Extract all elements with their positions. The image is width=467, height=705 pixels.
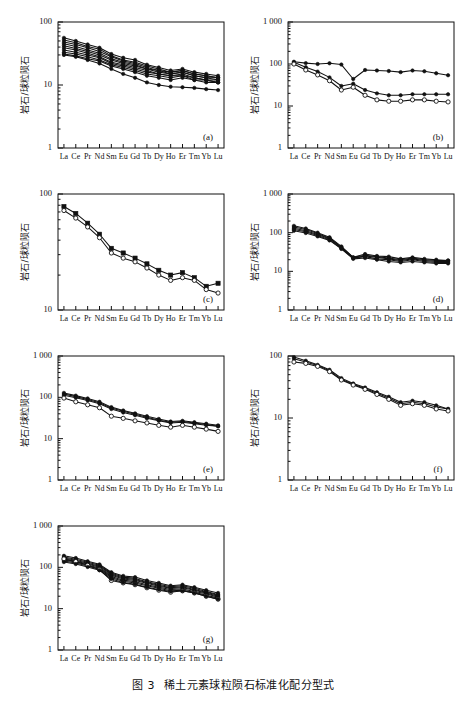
data-point — [339, 88, 343, 92]
x-tick-label-dy: Dy — [154, 654, 164, 663]
data-point — [62, 208, 66, 212]
data-point — [399, 70, 402, 73]
y-axis-label: 岩石/球粒陨石 — [19, 56, 30, 113]
x-tick-label-yb: Yb — [431, 152, 441, 161]
data-point — [122, 411, 125, 414]
data-point — [304, 61, 307, 64]
data-point — [292, 229, 295, 232]
data-point — [181, 589, 184, 592]
data-point — [169, 273, 173, 277]
x-tick-label-nd: Nd — [325, 484, 335, 493]
data-point — [387, 397, 391, 401]
x-tick-label-pr: Pr — [314, 314, 321, 323]
y-tick-label: 1 — [48, 474, 52, 484]
data-point — [328, 239, 331, 242]
data-point — [204, 427, 208, 431]
data-point — [216, 597, 219, 600]
panel-label: (e) — [203, 464, 213, 474]
panel-label: (d) — [433, 294, 444, 304]
x-tick-label-dy: Dy — [384, 152, 394, 161]
x-tick-label-yb: Yb — [201, 152, 211, 161]
y-axis-label: 岩石/球粒陨石 — [249, 389, 260, 446]
data-point — [181, 86, 184, 89]
data-point — [375, 92, 378, 95]
x-tick-label-tm: Tm — [419, 314, 431, 323]
x-tick-label-tm: Tm — [189, 484, 201, 493]
y-tick-label: 10 — [44, 433, 53, 443]
data-point — [109, 251, 113, 255]
data-point — [110, 67, 113, 70]
data-point — [122, 72, 125, 75]
data-point — [204, 287, 208, 291]
y-axis-label: 岩石/球粒陨石 — [249, 56, 260, 113]
y-tick-label: 1 — [278, 304, 282, 314]
data-point — [133, 76, 136, 79]
x-tick-label-gd: Gd — [360, 484, 370, 493]
data-point — [157, 83, 160, 86]
data-point — [157, 273, 161, 277]
data-point — [121, 251, 125, 255]
data-point — [434, 407, 438, 411]
x-tick-label-dy: Dy — [384, 314, 394, 323]
x-tick-label-sm: Sm — [106, 314, 117, 323]
data-point — [74, 55, 77, 58]
chart-panel-c: 10100LaCePrNdSmEuGdTbDyHoErTmYbLu岩石/球粒陨石… — [10, 180, 232, 340]
data-point — [363, 387, 367, 391]
y-tick-label: 100 — [269, 227, 282, 237]
plot-frame — [288, 22, 454, 148]
data-point — [169, 78, 172, 81]
x-tick-label-gd: Gd — [130, 484, 140, 493]
x-tick-label-la: La — [60, 654, 69, 663]
x-tick-label-eu: Eu — [119, 152, 128, 161]
x-tick-label-er: Er — [409, 152, 417, 161]
x-tick-label-ho: Ho — [166, 654, 176, 663]
data-point — [351, 85, 355, 89]
x-tick-label-er: Er — [409, 484, 417, 493]
x-tick-label-dy: Dy — [154, 314, 164, 323]
data-point — [446, 262, 449, 265]
panel-label: (b) — [433, 132, 444, 142]
data-point — [327, 370, 331, 374]
y-tick-label: 10 — [44, 304, 53, 314]
x-tick-label-tm: Tm — [189, 314, 201, 323]
data-point — [133, 413, 136, 416]
series-line-b2 — [294, 62, 448, 95]
x-tick-label-gd: Gd — [360, 152, 370, 161]
data-point — [363, 88, 366, 91]
data-point — [375, 392, 379, 396]
data-point — [292, 360, 296, 364]
x-tick-label-er: Er — [179, 314, 187, 323]
data-point — [304, 231, 307, 234]
data-point — [97, 406, 101, 410]
data-point — [304, 68, 308, 72]
plot-frame — [58, 356, 224, 480]
x-tick-label-ce: Ce — [301, 152, 310, 161]
data-point — [328, 62, 331, 65]
x-tick-label-eu: Eu — [349, 484, 358, 493]
data-point — [133, 70, 136, 73]
data-point — [399, 94, 402, 97]
chart-panel-b: 1101001 000LaCePrNdSmEuGdTbDyHoErTmYbLu岩… — [240, 8, 462, 178]
data-point — [157, 76, 160, 79]
data-point — [205, 81, 208, 84]
x-tick-label-lu: Lu — [214, 152, 223, 161]
y-tick-label: 1 — [48, 644, 52, 654]
y-tick-label: 100 — [39, 16, 52, 26]
data-point — [62, 396, 66, 400]
data-point — [86, 399, 89, 402]
data-point — [216, 425, 219, 428]
x-tick-label-gd: Gd — [130, 152, 140, 161]
x-tick-label-sm: Sm — [336, 484, 347, 493]
x-tick-label-pr: Pr — [314, 152, 321, 161]
data-point — [316, 73, 320, 77]
data-point — [216, 291, 220, 295]
chart-panel-g: 1101001 000LaCePrNdSmEuGdTbDyHoErTmYbLu岩… — [10, 512, 232, 680]
data-point — [133, 419, 137, 423]
x-tick-label-tb: Tb — [142, 152, 151, 161]
x-tick-label-pr: Pr — [84, 314, 91, 323]
data-point — [375, 69, 378, 72]
data-point — [339, 378, 343, 382]
y-tick-label: 100 — [39, 391, 52, 401]
x-tick-label-tb: Tb — [372, 484, 381, 493]
data-point — [216, 429, 220, 433]
